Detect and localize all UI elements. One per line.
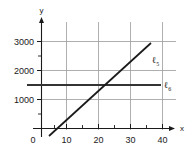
- chart-container: 3000 2000 1000 0 10 20 30 40 y x ℓ5 ℓ6: [0, 0, 189, 159]
- x-tick-label-40: 40: [157, 135, 167, 145]
- y-tick-label-2000: 2000: [14, 66, 34, 76]
- x-tick-label-0: 0: [30, 135, 35, 145]
- x-tick-label-20: 20: [93, 135, 103, 145]
- y-tick-label-1000: 1000: [14, 95, 34, 105]
- series-label-l5-subscript: 5: [156, 61, 159, 67]
- x-tick-label-10: 10: [61, 135, 71, 145]
- y-tick-label-3000: 3000: [14, 37, 34, 47]
- x-tick-label-30: 30: [125, 135, 135, 145]
- x-axis-label: x: [180, 124, 184, 133]
- series-label-l6-subscript: 6: [168, 86, 171, 92]
- y-axis-label: y: [40, 6, 44, 15]
- line-chart: 3000 2000 1000 0 10 20 30 40 y x ℓ5 ℓ6: [0, 0, 189, 159]
